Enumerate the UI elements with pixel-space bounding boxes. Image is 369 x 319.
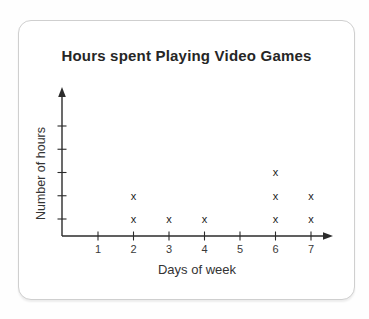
data-point-marker: x (131, 190, 137, 202)
data-point-marker: x (202, 213, 208, 225)
x-axis-tick-label: 5 (237, 243, 243, 255)
data-point-marker: x (273, 213, 279, 225)
screenshot-stage: Hours spent Playing Video Games 1234567x… (0, 0, 369, 319)
data-point-marker: x (308, 213, 314, 225)
y-axis-label: Number of hours (34, 99, 49, 249)
data-point-marker: x (166, 213, 172, 225)
data-point-marker: x (308, 190, 314, 202)
x-axis-tick-label: 6 (272, 243, 278, 255)
x-axis-tick-label: 1 (95, 243, 101, 255)
chart-plot-area: 1234567xxxxxxxxx (19, 21, 356, 301)
x-axis-tick-label: 7 (308, 243, 314, 255)
x-axis-tick-label: 4 (201, 243, 207, 255)
x-axis-label: Days of week (62, 262, 332, 277)
data-point-marker: x (131, 213, 137, 225)
y-axis-arrowhead-icon (58, 87, 66, 97)
x-axis-tick-label: 3 (166, 243, 172, 255)
data-point-marker: x (273, 166, 279, 178)
x-axis-arrowhead-icon (323, 232, 333, 240)
x-axis-tick-label: 2 (130, 243, 136, 255)
chart-card: Hours spent Playing Video Games 1234567x… (18, 20, 355, 300)
data-point-marker: x (273, 190, 279, 202)
